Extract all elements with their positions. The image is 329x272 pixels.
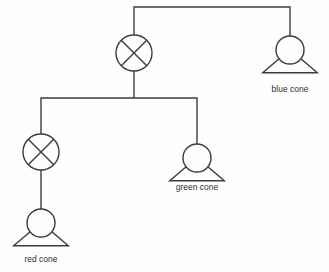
cone-circle-icon [27, 209, 55, 237]
connector-edge-level2-bar-left [41, 98, 134, 134]
edges-group [41, 7, 290, 209]
diagram-canvas: blue conegreen conered cone [0, 0, 329, 272]
node-blue-cone[interactable] [263, 36, 318, 73]
node-label-green-cone: green cone [176, 182, 219, 192]
connector-edge-level2-bar-right [134, 98, 197, 144]
cone-circle-icon [276, 36, 304, 64]
labels-group: blue conegreen conered cone [24, 84, 308, 264]
node-left-mixer[interactable] [23, 134, 59, 170]
connector-edge-root-bar [134, 7, 290, 36]
node-red-cone[interactable] [14, 209, 69, 246]
nodes-group [14, 35, 318, 246]
node-label-red-cone: red cone [24, 254, 57, 264]
node-green-cone[interactable] [170, 144, 225, 181]
tree-diagram: blue conegreen conered cone [0, 0, 329, 272]
node-label-blue-cone: blue cone [272, 84, 309, 94]
node-root-mixer[interactable] [116, 35, 152, 71]
cone-circle-icon [183, 144, 211, 172]
